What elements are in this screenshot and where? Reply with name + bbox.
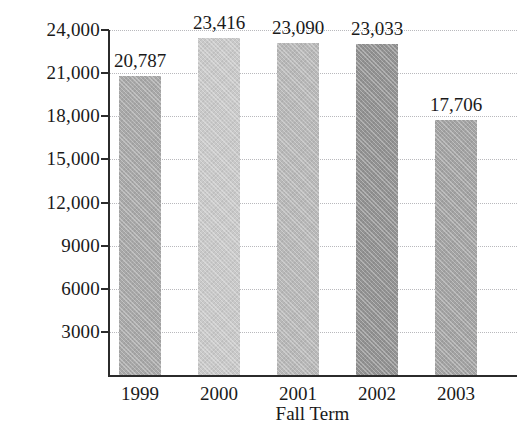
bar-chart: 30006000900012,00015,00018,00021,00024,0… (0, 0, 523, 436)
bar (435, 120, 477, 375)
y-axis-tick-label: 24,000 (8, 20, 100, 39)
x-axis-tick-label: 2003 (401, 384, 511, 403)
bar (356, 44, 398, 375)
y-axis-tick-label: 3000 (8, 322, 100, 341)
y-axis-tick-label: 9000 (8, 236, 100, 255)
bar-value-label: 20,787 (85, 51, 195, 70)
plot-area: 20,78723,41623,09023,03317,706 199920002… (108, 20, 517, 376)
bar-value-label: 17,706 (401, 95, 511, 114)
bar-value-label: 23,033 (322, 19, 432, 38)
y-axis-tick-label: 15,000 (8, 149, 100, 168)
bars (108, 20, 517, 376)
x-axis-title: Fall Term (108, 404, 517, 423)
bar (277, 43, 319, 375)
y-axis-tick-label: 6000 (8, 279, 100, 298)
y-axis-tick-label: 18,000 (8, 106, 100, 125)
bar (198, 38, 240, 375)
y-axis-tick-label: 12,000 (8, 193, 100, 212)
bar (119, 76, 161, 375)
